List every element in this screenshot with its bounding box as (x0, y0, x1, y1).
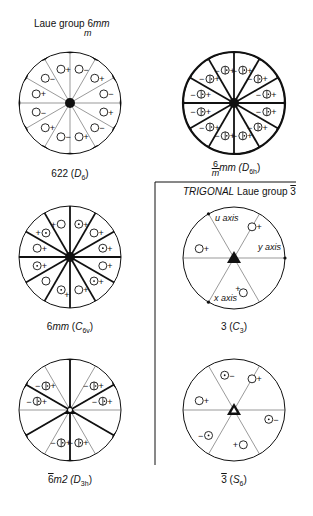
caption-6-mmm: 6mmm (D6h) (212, 160, 261, 177)
paren: ) (85, 168, 88, 179)
sign-label: − (99, 123, 104, 133)
sign-label: + (107, 397, 112, 407)
pole-dot (268, 418, 270, 420)
pole-dot (95, 385, 97, 387)
pole-dot (80, 442, 82, 444)
pole-circle (32, 108, 40, 116)
sign-label: − (214, 131, 219, 141)
x-axis-text: x axis (214, 293, 237, 303)
paren: ) (89, 474, 92, 485)
pole-dot (202, 93, 204, 95)
pole-dot (47, 385, 49, 387)
schoenflies: C (75, 321, 82, 332)
paren: ) (244, 321, 247, 332)
y-axis-label: y axis (258, 242, 281, 252)
sign-label: − (50, 438, 55, 448)
sign-label: − (84, 65, 89, 75)
pole-circle (90, 229, 98, 237)
pole-circle (91, 124, 99, 132)
sign-label: + (107, 261, 112, 271)
sign-label: + (263, 74, 268, 84)
schoenflies: D (74, 474, 81, 485)
sign-label: + (247, 66, 252, 76)
pole-circle (100, 90, 108, 98)
caption-symbol: 6mm (47, 321, 69, 332)
sign-label: + (50, 381, 55, 391)
sign-label: + (233, 440, 238, 450)
twofold-axis-icon (65, 359, 75, 360)
sign-label: + (107, 244, 112, 254)
sign-label: + (204, 396, 209, 406)
axis-arrow-icon (283, 256, 286, 259)
schoenflies-sub: 3h (81, 480, 89, 487)
sign-label: + (214, 74, 219, 84)
twofold-axis-icon (19, 98, 20, 108)
mirror-line (209, 410, 235, 454)
sign-label: + (99, 228, 104, 238)
sign-label: − (256, 90, 261, 100)
schoenflies: D (242, 162, 249, 173)
pole-dot (268, 93, 270, 95)
sign-label: + (84, 132, 89, 142)
pole-circle (33, 244, 41, 252)
sign-label: + (230, 66, 235, 76)
pole-dot (93, 280, 95, 282)
pole-circle (57, 220, 65, 228)
sign-label: + (99, 277, 104, 287)
sign-label: − (247, 74, 252, 84)
caption-3bar: 3 (S6) (221, 474, 247, 487)
x-axis-label: x axis (214, 293, 237, 303)
point-group-stereograms: Laue group 6mm m TRIGONAL Laue group 3 +… (0, 0, 313, 516)
pole-circle (91, 74, 99, 82)
y-axis-text: y axis (258, 242, 281, 252)
threefold-axis-icon (227, 251, 241, 263)
schoenflies-sub: 6v (82, 327, 89, 334)
sign-label: + (35, 228, 40, 238)
pole-dot (78, 223, 80, 225)
pole-circle (75, 65, 83, 73)
sign-label: + (99, 74, 104, 84)
pole-circle (41, 124, 49, 132)
pole-dot (211, 78, 213, 80)
twofold-axis-icon (65, 460, 75, 461)
pole-dot (259, 78, 261, 80)
sign-label: − (232, 131, 237, 141)
pole-circle (248, 223, 256, 231)
pole-dot (224, 374, 226, 376)
sign-label: − (83, 381, 88, 391)
caption-mm: mm (52, 321, 69, 332)
sign-label: − (92, 397, 97, 407)
pole-circle (99, 262, 107, 270)
sign-label: + (271, 107, 276, 117)
sign-label: + (42, 244, 47, 254)
pole-circle (195, 397, 203, 405)
mirror-line (26, 410, 70, 436)
sixfold-axis-icon (65, 252, 75, 262)
caption-6mm: 6mm (C6v) (47, 321, 93, 334)
sign-label: + (206, 107, 211, 117)
sign-label: + (83, 285, 88, 295)
sign-label: + (108, 108, 113, 118)
sign-label: − (68, 438, 73, 448)
sign-label: − (229, 371, 234, 381)
sign-label: − (198, 431, 203, 441)
pole-circle (100, 108, 108, 116)
pole-dot (211, 126, 213, 128)
pole-dot (202, 111, 204, 113)
paren: ) (257, 162, 260, 173)
twofold-axis-icon (120, 98, 121, 108)
twofold-axis-icon (112, 124, 117, 133)
sign-label: + (42, 397, 47, 407)
pole-circle (42, 277, 50, 285)
pole-dot (62, 442, 64, 444)
sign-label: + (204, 244, 209, 254)
pole-circle (75, 133, 83, 141)
schoenflies: D (74, 168, 81, 179)
pole-dot (102, 247, 104, 249)
sign-label: + (64, 290, 69, 300)
caption-text: 622 ( (51, 168, 74, 179)
pole-dot (45, 232, 47, 234)
sign-label: + (257, 222, 262, 232)
caption-text: mm ( (219, 162, 242, 173)
pole-circle (248, 375, 256, 383)
